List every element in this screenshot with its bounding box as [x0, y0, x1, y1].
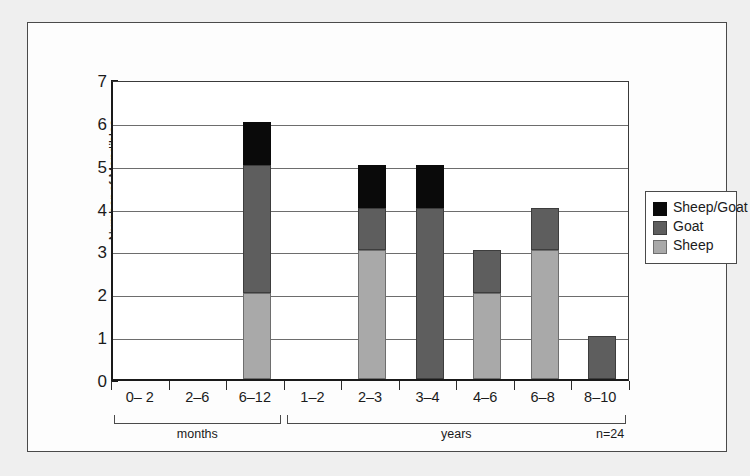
bar-segment-sheep — [473, 293, 501, 379]
legend-swatch-goat — [653, 221, 667, 235]
legend-item: Sheep/Goat — [653, 200, 729, 216]
y-axis-tick-label: 3 — [85, 244, 107, 261]
group-label: years — [287, 427, 626, 441]
bar-segment-goat — [243, 165, 271, 294]
y-axis-tick-label: 1 — [85, 330, 107, 347]
legend-label: Sheep/Goat — [673, 200, 748, 216]
x-axis-tick-label: 0– 2 — [112, 389, 168, 405]
y-axis-tick-label: 6 — [85, 115, 107, 132]
group-bracket — [287, 415, 626, 424]
bar-segment-sheepgoat — [243, 122, 271, 165]
y-axis-tick-labels: 01234567 — [83, 81, 107, 381]
legend-item: Goat — [653, 219, 729, 235]
y-axis-tick-label: 4 — [85, 201, 107, 218]
legend-swatch-sheep — [653, 240, 667, 254]
sample-size-note: n=24 — [596, 427, 624, 441]
y-axis-tick-label: 2 — [85, 287, 107, 304]
bar-segment-goat — [531, 208, 559, 251]
bar — [473, 250, 501, 379]
bar — [588, 336, 616, 379]
x-axis-tick-label: 1–2 — [284, 389, 340, 405]
figure-frame: Number of Mandibles 01234567 0– 22–66–12… — [27, 22, 727, 452]
bar-segment-goat — [588, 336, 616, 379]
figure-page: Number of Mandibles 01234567 0– 22–66–12… — [0, 0, 750, 476]
plot-area — [111, 81, 629, 381]
bar-segment-goat — [358, 208, 386, 251]
x-axis-tick-label: 3–4 — [400, 389, 456, 405]
bar-segment-sheep — [531, 250, 559, 379]
bar-segment-sheepgoat — [358, 165, 386, 208]
x-axis-tick-labels: 0– 22–66–121–22–33–44–66–88–10 — [111, 389, 629, 411]
x-axis-tick-mark — [629, 381, 630, 390]
legend-label: Goat — [673, 219, 703, 235]
y-axis-tick-label: 7 — [85, 73, 107, 90]
bar — [531, 208, 559, 379]
x-axis-tick-label: 4–6 — [457, 389, 513, 405]
bar-segment-sheep — [358, 250, 386, 379]
x-axis-tick-label: 6–8 — [515, 389, 571, 405]
bar-segment-sheep — [243, 293, 271, 379]
group-bracket — [114, 415, 281, 424]
bar-segment-goat — [473, 250, 501, 293]
x-axis-tick-label: 2–3 — [342, 389, 398, 405]
group-label: months — [114, 427, 281, 441]
x-axis-tick-label: 8–10 — [572, 389, 628, 405]
bar — [416, 165, 444, 379]
y-axis-tick-label: 0 — [85, 373, 107, 390]
legend-swatch-sheepgoat — [653, 202, 667, 216]
x-axis-tick-label: 6–12 — [227, 389, 283, 405]
legend-label: Sheep — [673, 238, 713, 254]
bar-segment-sheepgoat — [416, 165, 444, 208]
y-axis-tick-label: 5 — [85, 158, 107, 175]
x-axis-tick-label: 2–6 — [169, 389, 225, 405]
bar — [243, 122, 271, 379]
bar-segment-goat — [416, 208, 444, 379]
legend-item: Sheep — [653, 238, 729, 254]
bar — [358, 165, 386, 379]
gridline — [113, 125, 628, 126]
chart-legend: Sheep/GoatGoatSheep — [645, 191, 737, 264]
